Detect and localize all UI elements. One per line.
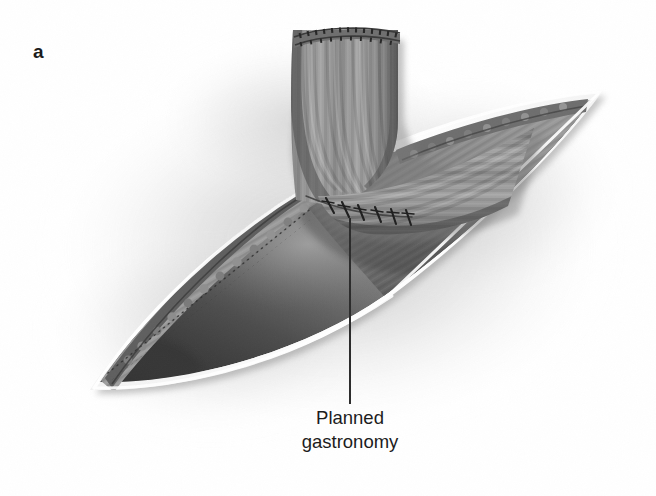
panel-letter-label: a (33, 42, 44, 61)
figure-panel: a Planned gastronomy (0, 0, 656, 496)
callout-label-line-2: gastronomy (250, 430, 450, 454)
callout-label: Planned gastronomy (250, 406, 450, 455)
callout-label-line-1: Planned (250, 406, 450, 430)
